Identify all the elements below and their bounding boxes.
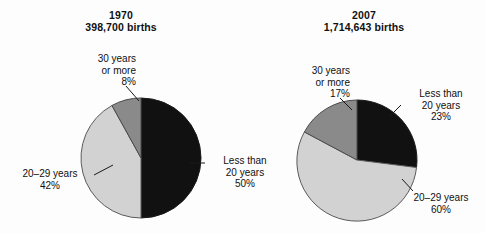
chart-2-label-30-or-more: 30 years or more 17%	[272, 65, 350, 100]
chart-1-label-20-29: 20–29 years 42%	[6, 168, 94, 191]
chart-2-label-30-or-more-line2: or more	[272, 77, 350, 89]
chart-2-label-30-or-more-line1: 30 years	[272, 65, 350, 77]
chart-2-label-less-than-20-pct: 23%	[404, 111, 478, 123]
chart-2-label-20-29-line1: 20–29 years	[398, 192, 484, 204]
chart-2-title-births: 1,714,643 births	[243, 21, 485, 34]
chart-2-label-20-29: 20–29 years 60%	[398, 192, 484, 215]
chart-1-title-births: 398,700 births	[0, 21, 242, 34]
chart-1-title-year: 1970	[0, 9, 242, 22]
chart-2-label-less-than-20-line1: Less than	[404, 88, 478, 100]
chart-1-label-30-or-more-line1: 30 years	[58, 53, 136, 65]
chart-panel-1970: 1970 398,700 births	[0, 0, 242, 233]
pie-chart-figure: 1970 398,700 births 30 years or more 8% …	[0, 0, 485, 233]
chart-1-label-20-29-line1: 20–29 years	[6, 168, 94, 180]
chart-2-label-20-29-pct: 60%	[398, 204, 484, 216]
chart-2-label-less-than-20: Less than 20 years 23%	[404, 88, 478, 123]
chart-1-label-20-29-pct: 42%	[6, 180, 94, 192]
chart-2-label-30-or-more-pct: 17%	[272, 88, 350, 100]
chart-2-title-year: 2007	[243, 9, 485, 22]
chart-1-label-30-or-more-pct: 8%	[58, 76, 136, 88]
chart-1-label-30-or-more-line2: or more	[58, 65, 136, 77]
chart-1-label-30-or-more: 30 years or more 8%	[58, 53, 136, 88]
chart-2-label-less-than-20-line2: 20 years	[404, 100, 478, 112]
